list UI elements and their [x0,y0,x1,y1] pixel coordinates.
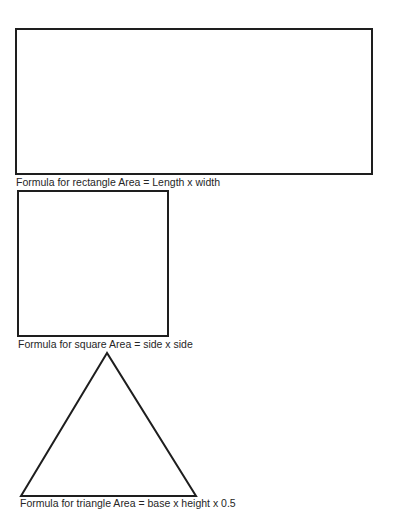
triangle-shape [0,0,393,526]
triangle-formula-caption: Formula for triangle Area = base x heigh… [20,497,236,509]
